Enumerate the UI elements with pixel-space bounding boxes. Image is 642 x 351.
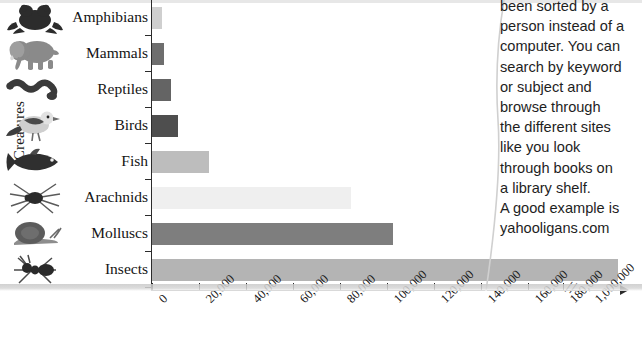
fish-icon bbox=[4, 144, 66, 180]
bar-reptiles bbox=[152, 79, 171, 101]
bar-birds bbox=[152, 115, 178, 137]
side-text-line: A good example is bbox=[500, 198, 642, 218]
category-label: Insects bbox=[62, 260, 148, 278]
bird-icon bbox=[4, 108, 66, 144]
elephant-icon bbox=[4, 36, 66, 72]
side-text-line: through books on bbox=[500, 158, 642, 178]
bar-molluscs bbox=[152, 223, 393, 245]
side-text-line: computer. You can bbox=[500, 36, 642, 56]
ant-icon bbox=[4, 252, 66, 288]
snake-icon bbox=[4, 72, 66, 108]
side-text-line: been sorted by a bbox=[500, 0, 642, 16]
snail-icon bbox=[4, 216, 66, 252]
bar-amphibians bbox=[152, 7, 162, 29]
side-text-line: search by keyword bbox=[500, 57, 642, 77]
side-text-line: person instead of a bbox=[500, 16, 642, 36]
scan-band-bottom bbox=[0, 284, 642, 291]
category-label: Reptiles bbox=[62, 80, 148, 98]
category-label: Mammals bbox=[62, 44, 148, 62]
side-text-block: been sorted by a person instead of a com… bbox=[500, 0, 642, 238]
category-label: Fish bbox=[62, 152, 148, 170]
category-label: Amphibians bbox=[62, 8, 148, 26]
category-label: Arachnids bbox=[62, 188, 148, 206]
frog-icon bbox=[4, 0, 66, 36]
side-text-line: browse through bbox=[500, 97, 642, 117]
side-text-line: the different sites bbox=[500, 117, 642, 137]
bar-mammals bbox=[152, 43, 164, 65]
bar-fish bbox=[152, 151, 209, 173]
side-text-line: yahooligans.com bbox=[500, 218, 642, 238]
category-label: Birds bbox=[62, 116, 148, 134]
bar-arachnids bbox=[152, 187, 351, 209]
side-text-line: like you look bbox=[500, 137, 642, 157]
category-label: Molluscs bbox=[62, 224, 148, 242]
side-text-line: a library shelf. bbox=[500, 178, 642, 198]
x-tick-label: 0 bbox=[156, 292, 171, 307]
side-text-line: or subject and bbox=[500, 77, 642, 97]
page-root: Creatures // Amphibians bbox=[0, 0, 642, 351]
spider-icon bbox=[4, 180, 66, 216]
